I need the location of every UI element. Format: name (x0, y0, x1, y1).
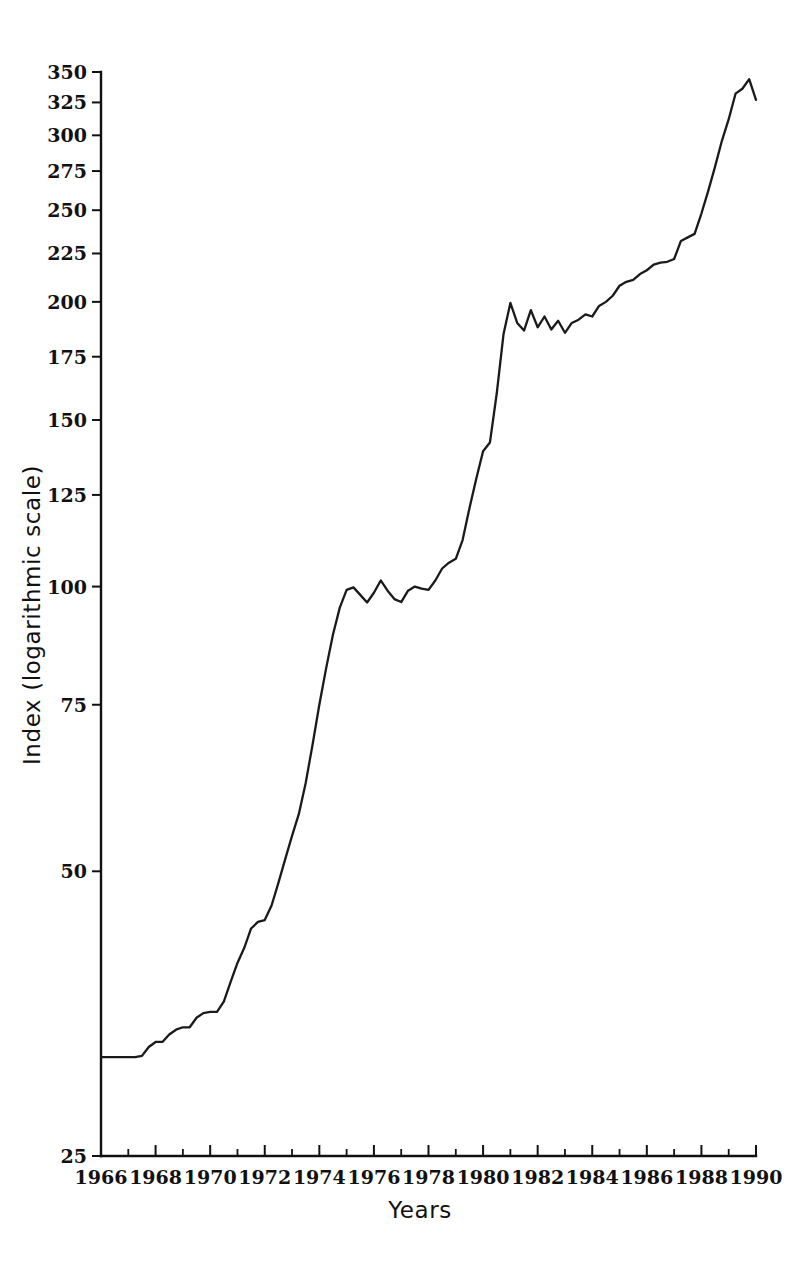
axes: 255075100125150175200225250275300325350 … (47, 61, 782, 1188)
x-tick-label: 1988 (675, 1166, 728, 1188)
x-tick-label: 1974 (293, 1166, 346, 1188)
x-axis-ticks (101, 1145, 756, 1156)
x-tick-label: 1986 (620, 1166, 673, 1188)
y-tick-label: 300 (47, 124, 87, 146)
y-axis-ticks (92, 72, 101, 1156)
y-axis-label: Index (logarithmic scale) (19, 465, 45, 765)
x-axis-label: Years (387, 1197, 452, 1223)
x-tick-label: 1976 (347, 1166, 400, 1188)
x-tick-label: 1984 (566, 1166, 619, 1188)
y-tick-label: 350 (47, 61, 87, 83)
x-tick-label: 1990 (730, 1166, 783, 1188)
y-tick-label: 225 (47, 242, 87, 264)
y-tick-label: 50 (61, 860, 87, 882)
y-tick-label: 75 (61, 694, 87, 716)
y-tick-label: 325 (47, 91, 87, 113)
y-tick-label: 200 (47, 291, 87, 313)
y-tick-label: 25 (61, 1145, 87, 1167)
x-tick-label: 1972 (238, 1166, 291, 1188)
x-tick-label: 1966 (75, 1166, 128, 1188)
chart-figure: 255075100125150175200225250275300325350 … (0, 0, 800, 1281)
y-tick-label: 100 (47, 576, 87, 598)
x-tick-label: 1980 (457, 1166, 510, 1188)
y-tick-label: 125 (47, 484, 87, 506)
y-tick-label: 250 (47, 199, 87, 221)
data-series-line (101, 79, 756, 1057)
y-tick-label: 275 (47, 160, 87, 182)
x-tick-label: 1982 (511, 1166, 564, 1188)
y-axis-tick-labels: 255075100125150175200225250275300325350 (47, 61, 87, 1167)
x-tick-label: 1970 (184, 1166, 237, 1188)
x-axis-tick-labels: 1966196819701972197419761978198019821984… (75, 1166, 783, 1188)
x-tick-label: 1978 (402, 1166, 455, 1188)
line-chart: 255075100125150175200225250275300325350 … (0, 0, 800, 1281)
y-tick-label: 175 (47, 346, 87, 368)
y-tick-label: 150 (47, 409, 87, 431)
x-tick-label: 1968 (129, 1166, 182, 1188)
